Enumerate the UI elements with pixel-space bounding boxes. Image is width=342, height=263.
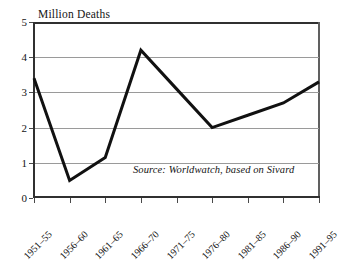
y-tick-label: 1 bbox=[22, 157, 28, 168]
x-tick-label: 1991–95 bbox=[333, 206, 342, 238]
x-tick-mark bbox=[212, 198, 213, 203]
x-tick-label-text: 1956–60 bbox=[58, 229, 90, 261]
x-tick-mark bbox=[34, 198, 35, 203]
x-tick-label-text: 1971–75 bbox=[165, 229, 197, 261]
x-tick-mark bbox=[70, 198, 71, 203]
y-tick-label: 0 bbox=[22, 193, 28, 204]
x-tick-mark bbox=[283, 198, 284, 203]
x-tick-label-text: 1991–95 bbox=[307, 229, 339, 261]
x-tick-mark bbox=[105, 198, 106, 203]
x-tick-mark bbox=[141, 198, 142, 203]
x-tick-label-text: 1961–65 bbox=[93, 229, 125, 261]
source-annotation: Source: Worldwatch, based on Sivard bbox=[133, 164, 294, 175]
y-axis-title: Million Deaths bbox=[38, 8, 110, 20]
y-tick-label: 3 bbox=[22, 87, 28, 98]
x-tick-label-text: 1951–55 bbox=[22, 229, 54, 261]
x-tick-label-text: 1981–85 bbox=[236, 229, 268, 261]
x-tick-mark bbox=[177, 198, 178, 203]
x-tick-label: 1976–80 bbox=[226, 206, 258, 238]
x-tick-label: 1986–90 bbox=[298, 206, 330, 238]
x-tick-label-text: 1986–90 bbox=[271, 229, 303, 261]
x-tick-label: 1966–70 bbox=[155, 206, 187, 238]
x-tick-label-text: 1976–80 bbox=[200, 229, 232, 261]
x-tick-mark bbox=[248, 198, 249, 203]
x-tick-mark bbox=[319, 198, 320, 203]
x-tick-label-text: 1966–70 bbox=[129, 229, 161, 261]
y-tick-label: 5 bbox=[22, 17, 28, 28]
series-line-million-deaths bbox=[34, 50, 319, 180]
y-tick-label: 4 bbox=[22, 52, 28, 63]
y-tick-label: 2 bbox=[22, 122, 28, 133]
y-tick-mark bbox=[29, 198, 33, 199]
x-tick-label: 1961–65 bbox=[120, 206, 152, 238]
x-tick-label: 1951–55 bbox=[48, 206, 80, 238]
